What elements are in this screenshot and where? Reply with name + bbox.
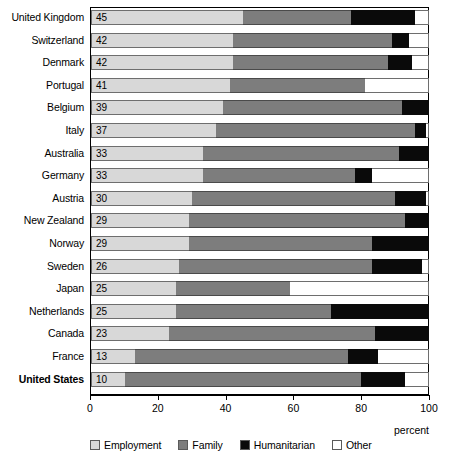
- legend-swatch-icon: [90, 440, 100, 450]
- bar-row: Belgium39: [0, 100, 449, 115]
- category-label: United States: [0, 372, 84, 387]
- bar-value-label: 29: [96, 236, 107, 251]
- category-label: United Kingdom: [0, 10, 84, 25]
- legend-label: Employment: [104, 439, 161, 451]
- bar-segment-employment: [91, 78, 230, 93]
- bar-row: Italy37: [0, 123, 449, 138]
- x-axis-title: percent: [0, 424, 429, 436]
- legend-item: Humanitarian: [240, 439, 315, 451]
- bar-segment-other: [412, 55, 429, 70]
- bar-segment-humanitarian: [392, 33, 409, 48]
- bar-row: Germany33: [0, 168, 449, 183]
- category-label: Austria: [0, 191, 84, 206]
- stacked-bar: 45: [91, 10, 429, 25]
- bar-segment-humanitarian: [372, 259, 423, 274]
- bar-segment-family: [179, 259, 372, 274]
- stacked-bar: 37: [91, 123, 429, 138]
- bar-segment-family: [233, 55, 388, 70]
- category-label: Australia: [0, 146, 84, 161]
- stacked-bar: 26: [91, 259, 429, 274]
- bar-segment-family: [216, 123, 415, 138]
- stacked-bar: 39: [91, 100, 429, 115]
- bar-row: Netherlands25: [0, 304, 449, 319]
- stacked-bar: 33: [91, 146, 429, 161]
- stacked-bar: 42: [91, 55, 429, 70]
- bar-segment-family: [230, 78, 365, 93]
- bar-segment-other: [415, 10, 429, 25]
- bar-row: Canada23: [0, 326, 449, 341]
- category-label: Belgium: [0, 100, 84, 115]
- x-axis: 020406080100: [90, 395, 430, 425]
- x-axis-tick: [293, 395, 294, 400]
- bar-segment-family: [203, 146, 399, 161]
- legend-item: Employment: [90, 439, 161, 451]
- x-axis-tick-label: 0: [87, 402, 93, 414]
- bar-row: Austria30: [0, 191, 449, 206]
- bar-segment-other: [378, 349, 429, 364]
- bar-segment-employment: [91, 146, 203, 161]
- bar-row: Australia33: [0, 146, 449, 161]
- legend-swatch-icon: [240, 440, 250, 450]
- bar-value-label: 23: [96, 326, 107, 341]
- bar-segment-employment: [91, 100, 223, 115]
- stacked-bar: 10: [91, 372, 429, 387]
- bar-value-label: 45: [96, 10, 107, 25]
- x-axis-line: [90, 395, 429, 396]
- category-label: Japan: [0, 281, 84, 296]
- category-label: Switzerland: [0, 33, 84, 48]
- bar-row: France13: [0, 349, 449, 364]
- bar-segment-employment: [91, 123, 216, 138]
- bar-segment-family: [243, 10, 351, 25]
- x-axis-tick: [361, 395, 362, 400]
- bar-segment-other: [372, 168, 429, 183]
- stacked-bar-chart: United Kingdom45Switzerland42Denmark42Po…: [0, 0, 449, 457]
- bar-segment-humanitarian: [355, 168, 372, 183]
- legend-swatch-icon: [178, 440, 188, 450]
- x-axis-tick-label: 100: [420, 402, 438, 414]
- legend-swatch-icon: [332, 440, 342, 450]
- legend-item: Family: [178, 439, 222, 451]
- bar-value-label: 42: [96, 55, 107, 70]
- bar-row: Switzerland42: [0, 33, 449, 48]
- category-label: Norway: [0, 236, 84, 251]
- bar-segment-family: [203, 168, 355, 183]
- bar-segment-humanitarian: [372, 236, 429, 251]
- x-axis-tick-label: 40: [220, 402, 232, 414]
- bar-value-label: 13: [96, 349, 107, 364]
- bar-segment-employment: [91, 33, 233, 48]
- bar-segment-family: [189, 213, 405, 228]
- bar-value-label: 39: [96, 100, 107, 115]
- bar-segment-other: [405, 372, 429, 387]
- bar-segment-humanitarian: [395, 191, 425, 206]
- bar-segment-family: [176, 281, 291, 296]
- bar-value-label: 37: [96, 123, 107, 138]
- bar-row: New Zealand29: [0, 213, 449, 228]
- category-label: Italy: [0, 123, 84, 138]
- bar-segment-other: [290, 281, 429, 296]
- bar-value-label: 41: [96, 78, 107, 93]
- bar-value-label: 30: [96, 191, 107, 206]
- bar-segment-humanitarian: [405, 213, 429, 228]
- stacked-bar: 41: [91, 78, 429, 93]
- category-label: Portugal: [0, 78, 84, 93]
- category-label: Canada: [0, 326, 84, 341]
- category-label: Germany: [0, 168, 84, 183]
- category-label: Sweden: [0, 259, 84, 274]
- bar-value-label: 25: [96, 281, 107, 296]
- x-axis-tick-label: 80: [355, 402, 367, 414]
- bar-segment-humanitarian: [388, 55, 412, 70]
- x-axis-tick: [226, 395, 227, 400]
- bar-segment-other: [409, 33, 429, 48]
- bar-segment-humanitarian: [399, 146, 429, 161]
- x-axis-tick-label: 20: [152, 402, 164, 414]
- legend-label: Other: [346, 439, 372, 451]
- bar-segment-employment: [91, 10, 243, 25]
- legend-item: Other: [332, 439, 372, 451]
- bar-row: Portugal41: [0, 78, 449, 93]
- bar-row: Sweden26: [0, 259, 449, 274]
- bar-segment-family: [192, 191, 395, 206]
- bar-value-label: 42: [96, 33, 107, 48]
- stacked-bar: 33: [91, 168, 429, 183]
- x-axis-tick: [90, 395, 91, 400]
- bar-value-label: 26: [96, 259, 107, 274]
